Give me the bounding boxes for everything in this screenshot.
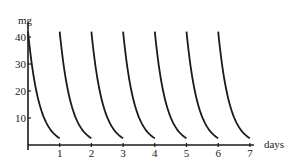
decay-curve — [28, 32, 60, 139]
x-tick-label: 3 — [120, 147, 126, 159]
y-axis-label: mg — [18, 14, 33, 26]
decay-curve — [218, 32, 250, 139]
y-tick-label: 20 — [15, 85, 27, 97]
x-axis-label: days — [264, 138, 284, 150]
decay-curve — [187, 32, 219, 139]
x-tick-label: 1 — [57, 147, 63, 159]
y-tick-label: 40 — [15, 31, 27, 43]
decay-curve — [155, 32, 187, 139]
y-tick-label: 10 — [15, 112, 27, 124]
decay-curve — [123, 32, 155, 139]
y-tick-label: 30 — [15, 58, 27, 70]
decay-curve — [91, 32, 123, 139]
x-tick-label: 2 — [89, 147, 95, 159]
chart: 123456710203040mgdays — [0, 0, 294, 161]
x-tick-label: 7 — [247, 147, 253, 159]
x-tick-label: 4 — [152, 147, 158, 159]
labels: 123456710203040mgdays — [15, 14, 284, 159]
x-tick-label: 6 — [215, 147, 221, 159]
curves — [28, 32, 250, 139]
decay-curve — [60, 32, 92, 139]
x-tick-label: 5 — [184, 147, 190, 159]
